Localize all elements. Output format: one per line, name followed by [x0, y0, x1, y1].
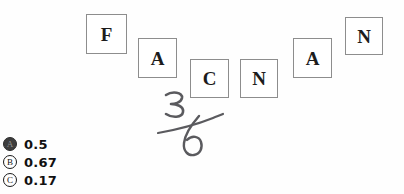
answer-choice-label: 0.17	[24, 173, 57, 188]
answer-choice-c[interactable]: C0.17	[3, 171, 123, 189]
answer-choice-a[interactable]: A0.5	[3, 135, 123, 153]
letter-tile[interactable]: N	[240, 59, 278, 98]
answer-choice-label: 0.5	[24, 137, 48, 152]
letter-tile[interactable]: A	[138, 38, 177, 78]
worksheet-canvas: FACNAN A0.5B0.67C0.17	[0, 0, 404, 194]
handwritten-numerator-3-stroke	[166, 93, 183, 117]
radio-unselected-icon[interactable]: B	[3, 155, 17, 169]
handwritten-denominator-6-stroke	[184, 116, 202, 155]
radio-selected-icon[interactable]: A	[3, 137, 17, 151]
letter-tile[interactable]: A	[293, 38, 332, 78]
answer-choice-list: A0.5B0.67C0.17	[3, 135, 123, 189]
handwritten-fraction-bar-stroke	[158, 114, 223, 133]
radio-unselected-icon[interactable]: C	[3, 173, 17, 187]
letter-tile[interactable]: F	[86, 14, 127, 54]
answer-choice-label: 0.67	[24, 155, 57, 170]
letter-tile[interactable]: N	[345, 17, 383, 55]
answer-choice-b[interactable]: B0.67	[3, 153, 123, 171]
letter-tile[interactable]: C	[190, 59, 229, 98]
